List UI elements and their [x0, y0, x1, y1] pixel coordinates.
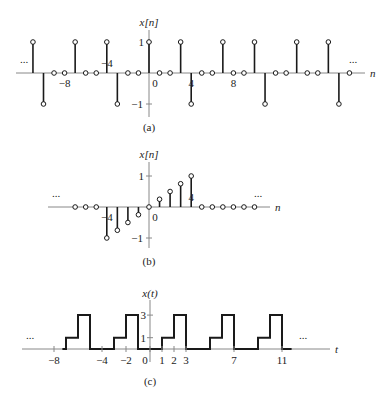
x-tick-label: 4	[188, 191, 194, 203]
stem-marker	[305, 71, 310, 76]
ellipsis-left: ...	[20, 53, 29, 65]
stem-marker	[178, 181, 183, 186]
stem-marker	[136, 71, 141, 76]
x-tick-label: 0	[142, 354, 148, 366]
stem-marker	[347, 71, 352, 76]
y-axis-label: x(t)	[141, 287, 158, 300]
x-tick-label: −2	[120, 354, 132, 366]
signal-waveform	[62, 315, 291, 349]
stem-marker	[189, 102, 194, 107]
x-tick-label: −8	[48, 354, 60, 366]
stem-marker	[168, 71, 173, 76]
stem-marker	[105, 236, 110, 241]
stem-marker	[83, 71, 88, 76]
stem-marker	[105, 40, 110, 45]
caption: (a)	[143, 121, 156, 134]
ellipsis-right: ...	[299, 329, 308, 341]
stem-marker	[115, 102, 120, 107]
caption: (b)	[143, 255, 156, 268]
stem-marker	[326, 40, 331, 45]
stem-marker	[73, 40, 78, 45]
x-tick-label: 0	[152, 211, 158, 223]
stem-marker	[337, 102, 342, 107]
x-tick-label: 2	[171, 354, 177, 366]
ellipsis-right: ...	[254, 187, 263, 199]
y-axis-label: x[n]	[139, 148, 159, 160]
panel-a-discrete-periodic: 1−1−8−4048x[n]n......(a)	[16, 16, 376, 134]
stem-marker	[147, 205, 152, 210]
stem-marker	[115, 228, 120, 233]
stem-marker	[273, 71, 278, 76]
stem-marker	[178, 40, 183, 45]
x-tick-label: 0	[152, 77, 158, 89]
x-tick-label: 11	[277, 354, 288, 366]
y-tick-label: 3	[141, 309, 147, 321]
stem-marker	[157, 71, 162, 76]
panel-b-discrete-ramp: 1−1−404x[n]n......(b)	[48, 148, 281, 268]
y-tick-label: 1	[139, 170, 145, 182]
x-axis-label: n	[370, 67, 376, 79]
y-axis-label: x[n]	[139, 16, 159, 28]
ellipsis-right: ...	[349, 53, 358, 65]
signal-figure: 1−1−8−4048x[n]n......(a) 1−1−404x[n]n...…	[0, 0, 389, 394]
stem-marker	[199, 205, 204, 210]
x-axis-label: n	[275, 201, 281, 213]
y-tick-label: −1	[131, 98, 143, 110]
y-tick-label: 1	[141, 332, 147, 344]
stem-marker	[231, 205, 236, 210]
ellipsis-left: ...	[52, 187, 61, 199]
stem-marker	[94, 71, 99, 76]
stem-marker	[126, 71, 131, 76]
stem-marker	[168, 189, 173, 194]
stem-marker	[242, 205, 247, 210]
stem-marker	[210, 205, 215, 210]
stem-marker	[83, 205, 88, 210]
stem-marker	[73, 205, 78, 210]
x-tick-label: 7	[231, 354, 237, 366]
panel-c-continuous-periodic: 31−8−4−20123711x(t)t......(c)	[22, 287, 339, 388]
stem-marker	[263, 102, 268, 107]
stem-marker	[189, 174, 194, 179]
x-tick-label: 4	[188, 77, 194, 89]
stem-marker	[221, 40, 226, 45]
x-tick-label: −8	[59, 77, 71, 89]
x-tick-label: −4	[96, 354, 108, 366]
stem-marker	[284, 71, 289, 76]
stem-marker	[31, 40, 36, 45]
stem-marker	[210, 71, 215, 76]
stem-marker	[147, 40, 152, 45]
y-tick-label: −1	[131, 232, 143, 244]
x-tick-label: −4	[101, 211, 113, 223]
stem-marker	[136, 212, 141, 217]
stem-marker	[157, 197, 162, 202]
stem-marker	[242, 71, 247, 76]
stem-marker	[231, 71, 236, 76]
x-axis-label: t	[335, 343, 339, 355]
y-tick-label: 1	[139, 36, 145, 48]
stem-marker	[252, 40, 257, 45]
ellipsis-left: ...	[26, 329, 35, 341]
stem-marker	[199, 71, 204, 76]
x-tick-label: 3	[183, 354, 189, 366]
stem-marker	[316, 71, 321, 76]
caption: (c)	[144, 375, 157, 388]
x-tick-label: −4	[101, 57, 113, 69]
x-tick-label: 1	[159, 354, 165, 366]
stem-marker	[94, 205, 99, 210]
stem-marker	[52, 71, 57, 76]
x-tick-label: 8	[231, 77, 237, 89]
stem-marker	[41, 102, 46, 107]
stem-marker	[126, 220, 131, 225]
stem-marker	[294, 40, 299, 45]
stem-marker	[221, 205, 226, 210]
stem-marker	[252, 205, 257, 210]
stem-marker	[62, 71, 67, 76]
